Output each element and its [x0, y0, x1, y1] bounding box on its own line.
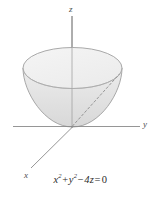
equation-caption: x2+y2−4z=0 [0, 172, 161, 185]
equation-term-4z: 4z [84, 174, 94, 185]
paraboloid-figure: z y x x2+y2−4z=0 [0, 0, 161, 198]
equation-rhs: 0 [101, 174, 107, 185]
paraboloid-top-ellipse [23, 48, 122, 89]
x-axis-line [31, 127, 73, 168]
y-axis-label: y [142, 119, 147, 129]
z-axis-label: z [68, 4, 73, 14]
figure-canvas: z y x [0, 0, 161, 198]
equation-plus: + [62, 174, 69, 185]
